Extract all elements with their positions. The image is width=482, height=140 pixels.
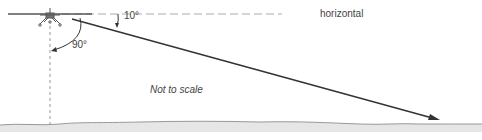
- vertical-angle-label: 90°: [72, 39, 87, 50]
- depression-angle-arc: [115, 14, 119, 28]
- diagram-canvas: [0, 0, 482, 140]
- depression-angle-label: 10°: [124, 10, 139, 21]
- scale-note: Not to scale: [150, 84, 203, 95]
- line-of-sight-arrow: [72, 19, 440, 120]
- horizontal-label: horizontal: [320, 8, 363, 19]
- aircraft-icon: [8, 8, 92, 26]
- ground-surface: [0, 121, 482, 132]
